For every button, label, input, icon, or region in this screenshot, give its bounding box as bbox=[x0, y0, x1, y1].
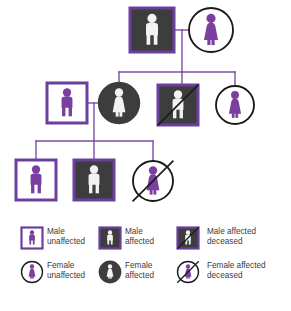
individual-g1-mother[interactable] bbox=[189, 8, 233, 52]
legend-male-affected-deceased-label-line2: deceased bbox=[207, 237, 243, 246]
legend-male-affected-deceased-symbol bbox=[177, 227, 198, 248]
legend-male-affected: Maleaffected bbox=[100, 227, 155, 249]
individual-g3-child-2[interactable] bbox=[74, 160, 114, 200]
generation-3 bbox=[16, 160, 173, 201]
legend-female-affected-label-line2: affected bbox=[125, 271, 154, 280]
legend-female-affected-deceased-symbol bbox=[177, 261, 198, 282]
legend-female-unaffected-symbol bbox=[22, 262, 43, 283]
legend-female-unaffected-label-line2: unaffected bbox=[47, 271, 86, 280]
legend-male-affected-deceased: Male affecteddeceased bbox=[177, 227, 256, 249]
individual-g2-son[interactable] bbox=[158, 85, 199, 126]
legend-male-unaffected: Maleunaffected bbox=[22, 227, 86, 249]
generation-2 bbox=[47, 83, 254, 125]
legend-items: MaleunaffectedMaleaffectedMale affectedd… bbox=[22, 227, 267, 283]
legend: MaleunaffectedMaleaffectedMale affectedd… bbox=[0, 215, 291, 311]
legend-female-affected-deceased-label-line1: Female affected bbox=[207, 261, 266, 270]
pedigree-diagram bbox=[0, 0, 291, 215]
legend-male-unaffected-symbol bbox=[22, 228, 43, 249]
pedigree-chart-root: MaleunaffectedMaleaffectedMale affectedd… bbox=[0, 0, 291, 311]
legend-female-unaffected: Femaleunaffected bbox=[22, 261, 86, 283]
individual-g3-child-3[interactable] bbox=[133, 161, 174, 202]
individual-g2-daughter[interactable] bbox=[99, 83, 139, 123]
legend-female-affected-deceased-label-line2: deceased bbox=[207, 271, 243, 280]
individual-g2-daughter-2[interactable] bbox=[216, 86, 254, 124]
legend-female-affected: Femaleaffected bbox=[100, 261, 155, 283]
legend-male-affected-label-line1: Male bbox=[125, 227, 143, 236]
legend-male-unaffected-label-line2: unaffected bbox=[47, 237, 86, 246]
legend-female-affected-symbol bbox=[100, 262, 121, 283]
individual-g3-child-1[interactable] bbox=[16, 160, 56, 200]
legend-female-unaffected-label-line1: Female bbox=[47, 261, 75, 270]
pedigree-individuals bbox=[16, 8, 254, 201]
legend-female-affected-label-line1: Female bbox=[125, 261, 153, 270]
legend-female-affected-deceased: Female affecteddeceased bbox=[177, 261, 266, 283]
individual-g2-spouse-male[interactable] bbox=[47, 83, 87, 123]
legend-male-affected-symbol bbox=[100, 228, 121, 249]
legend-male-affected-deceased-label-line1: Male affected bbox=[207, 227, 256, 236]
legend-male-affected-label-line2: affected bbox=[125, 237, 154, 246]
legend-male-unaffected-label-line1: Male bbox=[47, 227, 65, 236]
individual-g1-father[interactable] bbox=[130, 8, 174, 52]
